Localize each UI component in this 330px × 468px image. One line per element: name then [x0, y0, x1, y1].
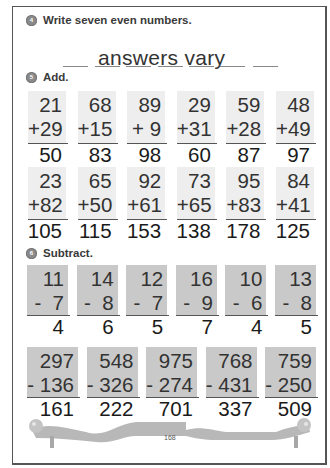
top-operand: 29 — [188, 95, 211, 116]
subtraction-problem: 297- 136161 — [27, 347, 78, 420]
bottom-operand: +65 — [177, 195, 211, 216]
top-operand: 23 — [39, 171, 62, 192]
answer: 4 — [53, 317, 64, 338]
subtraction-problem: 13- 85 — [275, 265, 316, 338]
addition-problem: 95+83178 — [226, 167, 264, 244]
bottom-operand: +15 — [78, 119, 112, 140]
addition-problem: 73+65138 — [177, 167, 215, 244]
answer: 50 — [39, 145, 62, 166]
bottom-operand: - 8 — [77, 293, 114, 314]
answer: 83 — [89, 145, 112, 166]
addition-problem: 21+2950 — [28, 91, 66, 168]
bottom-operand: +49 — [276, 119, 310, 140]
bottom-operand: + 9 — [127, 119, 161, 140]
top-operand: 759 — [278, 351, 312, 372]
bottom-operand: - 7 — [126, 293, 163, 314]
bottom-operand: - 274 — [146, 375, 193, 396]
bottom-operand: +41 — [276, 195, 310, 216]
subtraction-problem: 548- 326222 — [87, 347, 138, 420]
top-operand: 68 — [89, 95, 112, 116]
addition-problem: 48+4997 — [276, 91, 314, 168]
answer: 87 — [238, 145, 261, 166]
addition-problem: 92+61153 — [127, 167, 165, 244]
bottom-operand: +31 — [177, 119, 211, 140]
section-4-badge: 4 — [26, 15, 37, 26]
top-operand: 768 — [218, 351, 252, 372]
answer: 6 — [102, 317, 113, 338]
subtraction-problem: 11- 74 — [27, 265, 68, 338]
bottom-operand: - 8 — [275, 293, 312, 314]
answers-vary-text: answers vary — [98, 46, 225, 70]
subtraction-problem: 12- 75 — [126, 265, 167, 338]
addition-problem: 65+50115 — [78, 167, 116, 244]
top-operand: 48 — [287, 95, 310, 116]
decorative-ribbon-icon — [26, 416, 316, 450]
bottom-operand: - 6 — [225, 293, 262, 314]
top-operand: 975 — [159, 351, 193, 372]
addition-problem: 84+41125 — [276, 167, 314, 244]
top-operand: 92 — [138, 171, 161, 192]
section-5-heading: 5 Add. — [26, 71, 69, 83]
answer-blank — [253, 66, 278, 67]
answer: 138 — [177, 221, 211, 242]
addition-problem: 89+ 998 — [127, 91, 165, 168]
subtraction-problem: 768- 431337 — [206, 347, 257, 420]
top-operand: 11 — [43, 269, 64, 290]
bottom-operand: +83 — [226, 195, 260, 216]
top-operand: 84 — [287, 171, 310, 192]
addition-problem: 59+2887 — [226, 91, 264, 168]
top-operand: 548 — [99, 351, 133, 372]
bottom-operand: +28 — [226, 119, 260, 140]
bottom-operand: - 431 — [206, 375, 253, 396]
bottom-operand: - 326 — [87, 375, 134, 396]
answer: 5 — [301, 317, 312, 338]
section-5-title: Add. — [43, 71, 69, 83]
bottom-operand: +61 — [127, 195, 161, 216]
top-operand: 65 — [89, 171, 112, 192]
top-operand: 297 — [40, 351, 74, 372]
top-operand: 10 — [240, 269, 263, 290]
section-6-heading: 6 Subtract. — [26, 247, 93, 259]
top-operand: 21 — [39, 95, 62, 116]
bottom-operand: - 136 — [27, 375, 74, 396]
bottom-operand: +82 — [28, 195, 62, 216]
answer: 4 — [251, 317, 262, 338]
answer: 153 — [127, 221, 161, 242]
answer: 178 — [226, 221, 260, 242]
subtraction-problem: 975- 274701 — [146, 347, 197, 420]
subtraction-problem: 16- 97 — [176, 265, 217, 338]
answer: 97 — [287, 145, 310, 166]
bottom-operand: - 250 — [265, 375, 312, 396]
top-operand: 73 — [188, 171, 211, 192]
answer-blank — [63, 66, 88, 67]
top-operand: 12 — [140, 269, 163, 290]
bottom-operand: +50 — [78, 195, 112, 216]
top-operand: 14 — [91, 269, 114, 290]
answer: 7 — [201, 317, 212, 338]
top-operand: 95 — [238, 171, 261, 192]
bottom-operand: - 9 — [176, 293, 213, 314]
even-numbers-answer-area: answers vary — [0, 44, 330, 74]
addition-problem: 23+82105 — [28, 167, 66, 244]
subtraction-problem: 14- 86 — [77, 265, 118, 338]
answer: 98 — [138, 145, 161, 166]
section-5-badge: 5 — [26, 72, 37, 83]
addition-problem: 68+1583 — [78, 91, 116, 168]
page-number: 168 — [164, 434, 176, 441]
answer: 125 — [276, 221, 310, 242]
answer: 115 — [79, 221, 112, 242]
section-4-title: Write seven even numbers. — [43, 14, 192, 26]
subtraction-problem: 759- 250509 — [265, 347, 316, 420]
top-operand: 16 — [190, 269, 213, 290]
addition-problem: 29+3160 — [177, 91, 215, 168]
bottom-operand: - 7 — [27, 293, 64, 314]
answer: 60 — [188, 145, 211, 166]
answer: 5 — [152, 317, 163, 338]
answer: 105 — [28, 221, 62, 242]
section-4-heading: 4 Write seven even numbers. — [26, 14, 192, 26]
top-operand: 13 — [289, 269, 312, 290]
top-operand: 89 — [138, 95, 161, 116]
subtraction-problem: 10- 64 — [225, 265, 266, 338]
bottom-operand: +29 — [28, 119, 62, 140]
section-6-title: Subtract. — [43, 247, 93, 259]
